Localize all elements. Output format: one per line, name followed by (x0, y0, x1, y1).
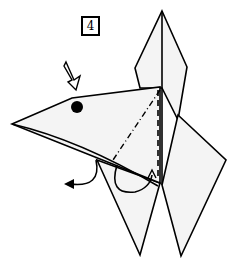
arrowhead (64, 179, 74, 189)
origami-diagram (0, 0, 232, 261)
step-number-box: 4 (81, 16, 100, 36)
eye-dot (71, 101, 83, 113)
fold-behind-arrow-icon (70, 160, 97, 185)
head (12, 87, 160, 183)
right-kite (162, 115, 226, 256)
push-arrow-icon (64, 62, 80, 90)
